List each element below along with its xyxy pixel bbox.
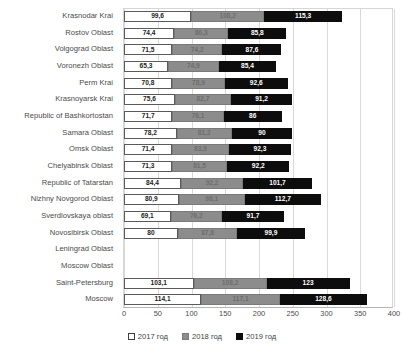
- bar-stack[interactable]: 103,1108,2123: [124, 278, 350, 289]
- bar-value-label: 87,6: [245, 47, 258, 54]
- bar-segment-2[interactable]: 80,3: [174, 28, 228, 39]
- x-tick-label: 0: [122, 309, 126, 318]
- bar-segment-3[interactable]: 86: [224, 111, 282, 122]
- legend-item[interactable]: 2019 год: [236, 332, 276, 341]
- bar-segment-3[interactable]: 112,7: [245, 194, 321, 205]
- legend-item[interactable]: 2018 год: [182, 332, 222, 341]
- bar-stack[interactable]: 80,998,1112,7: [124, 194, 321, 205]
- bar-value-label: 99,9: [265, 230, 278, 237]
- bar-segment-3[interactable]: 123: [267, 278, 350, 289]
- bar-value-label: 74,9: [187, 63, 200, 70]
- bar-value-label: 76,1: [192, 113, 205, 120]
- bar-segment-1[interactable]: 70,8: [124, 78, 172, 89]
- bar-segment-3[interactable]: 128,6: [280, 294, 367, 305]
- bar-segment-1[interactable]: 99,6: [124, 11, 191, 22]
- bar-segment-1[interactable]: 103,1: [124, 278, 194, 289]
- bar-segment-1[interactable]: 80: [124, 228, 178, 239]
- bar-stack[interactable]: 71,381,592,2: [124, 161, 289, 172]
- bar-segment-2[interactable]: 76,2: [171, 211, 222, 222]
- bar-segment-2[interactable]: 74,9: [168, 61, 219, 72]
- bar-segment-1[interactable]: 75,6: [124, 94, 175, 105]
- bar-value-label: 87,8: [201, 230, 214, 237]
- bar-stack[interactable]: 74,480,385,8: [124, 28, 286, 39]
- bar-segment-2[interactable]: 98,1: [179, 194, 245, 205]
- bar-value-label: 115,3: [295, 13, 311, 20]
- bar-segment-2[interactable]: 92,2: [181, 178, 243, 189]
- bar-segment-3[interactable]: 92,6: [225, 78, 288, 89]
- bar-segment-3[interactable]: 87,6: [222, 44, 281, 55]
- x-tick-label: 200: [253, 309, 265, 318]
- bar-stack[interactable]: 114,1117,1128,6: [124, 294, 367, 305]
- bar-segment-3[interactable]: 85,4: [219, 61, 277, 72]
- bar-segment-3[interactable]: 90: [232, 128, 293, 139]
- bar-segment-1[interactable]: 74,4: [124, 28, 174, 39]
- bar-stack[interactable]: 71,776,186: [124, 111, 282, 122]
- bar-value-label: 114,1: [154, 296, 170, 303]
- x-axis-ticks: 050100150200250300350400: [123, 309, 395, 323]
- category-label: Leningrad Oblast: [0, 241, 118, 258]
- bar-stack[interactable]: 99,6108,2115,3: [124, 11, 342, 22]
- category-label: Omsk Oblast: [0, 141, 118, 158]
- x-tick-label: 50: [154, 309, 162, 318]
- bar-stack[interactable]: 69,176,291,7: [124, 211, 284, 222]
- bar-segment-2[interactable]: 82,7: [175, 94, 231, 105]
- bar-value-label: 92,2: [252, 163, 265, 170]
- bar-segment-2[interactable]: 78,9: [172, 78, 225, 89]
- bar-stack[interactable]: 75,682,791,2: [124, 94, 292, 105]
- bar-segment-2[interactable]: 117,1: [201, 294, 280, 305]
- bar-segment-2[interactable]: 74,2: [172, 44, 222, 55]
- bar-segment-1[interactable]: 114,1: [124, 294, 201, 305]
- bar-segment-1[interactable]: 84,4: [124, 178, 181, 189]
- category-label: Rostov Oblast: [0, 25, 118, 42]
- bar-segment-1[interactable]: 69,1: [124, 211, 171, 222]
- bar-stack[interactable]: 71,483,992,3: [124, 144, 291, 155]
- bar-segment-2[interactable]: 87,8: [178, 228, 237, 239]
- bar-row: 99,6108,2115,3: [124, 9, 392, 26]
- bar-segment-2[interactable]: 76,1: [172, 111, 223, 122]
- bar-segment-1[interactable]: 80,9: [124, 194, 179, 205]
- bar-stack[interactable]: 78,281,290: [124, 128, 292, 139]
- bar-segment-2[interactable]: 81,5: [172, 161, 227, 172]
- bar-segment-1[interactable]: 71,7: [124, 111, 172, 122]
- bar-segment-1[interactable]: 71,3: [124, 161, 172, 172]
- category-label: Chelyabinsk Oblast: [0, 158, 118, 175]
- bar-segment-3[interactable]: 99,9: [237, 228, 304, 239]
- bar-segment-2[interactable]: 108,2: [191, 11, 264, 22]
- category-label: Saint-Petersburg: [0, 275, 118, 292]
- gridline: [394, 9, 395, 307]
- bar-segment-3[interactable]: 115,3: [264, 11, 342, 22]
- bar-segment-3[interactable]: 92,2: [227, 161, 289, 172]
- bar-stack[interactable]: 8087,899,9: [124, 228, 305, 239]
- bar-segment-2[interactable]: 81,2: [177, 128, 232, 139]
- bar-value-label: 128,6: [315, 296, 332, 303]
- bar-segment-3[interactable]: 101,7: [243, 178, 312, 189]
- bar-value-label: 92,2: [206, 180, 219, 187]
- bar-segment-3[interactable]: 85,8: [228, 28, 286, 39]
- bar-segment-2[interactable]: 83,9: [172, 144, 229, 155]
- bar-segment-3[interactable]: 91,2: [231, 94, 293, 105]
- bar-row: 70,878,992,6: [124, 76, 392, 93]
- bar-segment-2[interactable]: 108,2: [194, 278, 267, 289]
- bar-segment-1[interactable]: 78,2: [124, 128, 177, 139]
- bar-row: [124, 259, 392, 276]
- category-label: Voronezh Oblast: [0, 58, 118, 75]
- bar-row: 69,176,291,7: [124, 209, 392, 226]
- bar-segment-1[interactable]: 71,4: [124, 144, 172, 155]
- category-label: Novosibirsk Oblast: [0, 225, 118, 242]
- x-tick-label: 100: [185, 309, 197, 318]
- bar-segment-3[interactable]: 91,7: [222, 211, 284, 222]
- bar-stack[interactable]: 70,878,992,6: [124, 78, 288, 89]
- bar-row: 71,776,186: [124, 109, 392, 126]
- bar-row: 84,492,2101,7: [124, 176, 392, 193]
- bar-segment-1[interactable]: 65,3: [124, 61, 168, 72]
- bar-value-label: 84,4: [146, 180, 159, 187]
- bar-stack[interactable]: 65,374,985,4: [124, 61, 276, 72]
- bar-segment-1[interactable]: 71,5: [124, 44, 172, 55]
- bar-segment-3[interactable]: 92,3: [229, 144, 291, 155]
- category-label: Perm Krai: [0, 75, 118, 92]
- legend-item[interactable]: 2017 год: [128, 332, 168, 341]
- bar-value-label: 71,7: [142, 113, 155, 120]
- bar-row: 103,1108,2123: [124, 276, 392, 293]
- bar-stack[interactable]: 71,574,287,6: [124, 44, 281, 55]
- bar-stack[interactable]: 84,492,2101,7: [124, 178, 312, 189]
